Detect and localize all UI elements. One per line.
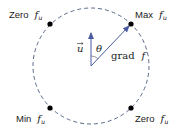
point-max: [128, 21, 133, 26]
gradient-diagram: u θ grad f Zero fu Max fu Min fu Zero fu: [0, 0, 181, 134]
label-min: Min fu: [16, 108, 45, 126]
point-min: [47, 105, 52, 110]
theta-label: θ: [96, 43, 102, 54]
u-vector-label: u: [77, 42, 83, 54]
point-zero-bottom-right: [128, 105, 133, 110]
point-zero-top-left: [47, 21, 52, 26]
label-zero-bottom-right: Zero fu: [135, 108, 168, 126]
grad-f-label: grad f: [111, 45, 148, 62]
label-max: Max fu: [135, 4, 167, 22]
u-label-text: u: [77, 43, 83, 54]
label-zero-top-left: Zero fu: [9, 4, 42, 22]
theta-arc: [91, 56, 98, 59]
